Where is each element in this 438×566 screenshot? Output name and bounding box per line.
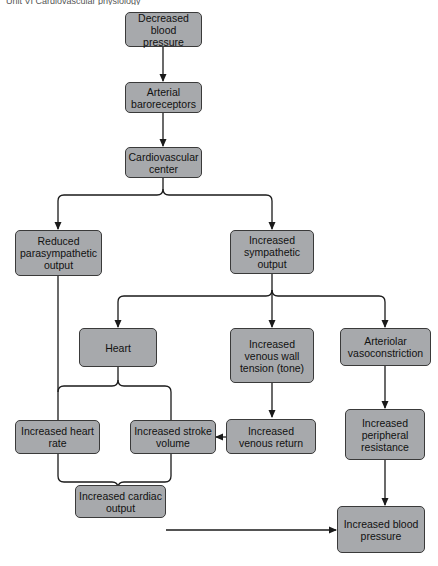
- arrow-cvcenter-parasympathetic: [58, 177, 163, 229]
- node-increased-venous-wall-tension: Increased venous wall tension (tone): [230, 328, 314, 383]
- arrow-heart-heartrate: [58, 367, 118, 392]
- node-arterial-baroreceptors: Arterial baroreceptors: [125, 82, 202, 113]
- node-cardiovascular-center: Cardiovascular center: [125, 147, 202, 178]
- arrow-sympathetic-vasoconstriction: [272, 290, 385, 327]
- node-increased-blood-pressure: Increased blood pressure: [337, 506, 425, 553]
- node-decreased-blood-pressure: Decreased blood pressure: [125, 12, 202, 47]
- node-reduced-parasympathetic-output: Reduced parasympathetic output: [15, 230, 102, 276]
- node-arteriolar-vasoconstriction: Arteriolar vasoconstriction: [340, 328, 431, 366]
- node-increased-sympathetic-output: Increased sympathetic output: [230, 230, 314, 274]
- arrow-sympathetic-heart: [118, 274, 272, 327]
- node-heart: Heart: [79, 328, 157, 367]
- node-increased-heart-rate: Increased heart rate: [15, 420, 100, 454]
- arrow-cvcenter-sympathetic: [163, 189, 272, 229]
- node-increased-cardiac-output: Increased cardiac output: [75, 485, 166, 518]
- arrow-strokevolume-cardiacoutput: [118, 454, 171, 488]
- flow-arrows: [0, 0, 438, 566]
- node-increased-venous-return: Increased venous return: [226, 419, 316, 454]
- node-increased-peripheral-resistance: Increased peripheral resistance: [345, 409, 425, 460]
- node-increased-stroke-volume: Increased stroke volume: [130, 420, 216, 454]
